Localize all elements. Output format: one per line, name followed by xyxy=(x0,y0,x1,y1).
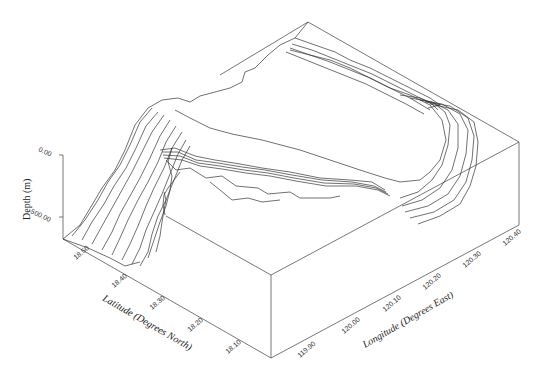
depth-axis: 0.00 -500.00 Depth (m) xyxy=(21,146,53,223)
longitude-tick-label: 120.10 xyxy=(381,294,402,313)
depth-tick-label: 0.00 xyxy=(38,146,53,158)
latitude-tick-label: 18.10 xyxy=(224,338,242,355)
longitude-axis-line xyxy=(271,225,519,358)
latitude-axis: 18.50 18.40 18.30 18.20 18.10 Latitude (… xyxy=(72,244,242,355)
latitude-axis-line xyxy=(63,239,271,358)
longitude-axis-title: Longitude (Degrees East) xyxy=(360,288,457,351)
plateau-contours xyxy=(175,22,478,224)
longitude-tick-label: 120.00 xyxy=(340,316,361,335)
western-slope-contours xyxy=(63,98,190,266)
longitude-tick-label: 120.30 xyxy=(461,250,482,269)
latitude-tick-label: 18.50 xyxy=(72,244,90,261)
southern-escarpment-contours xyxy=(160,148,390,202)
longitude-tick-label: 120.20 xyxy=(421,272,442,291)
back-left-top-edge xyxy=(220,22,308,75)
longitude-axis: 119.90 120.00 120.10 120.20 120.30 120.4… xyxy=(296,228,522,359)
bathymetry-3d-chart: 0.00 -500.00 Depth (m) 18.50 18.40 18.30… xyxy=(0,0,549,382)
latitude-tick-label: 18.30 xyxy=(148,294,166,311)
depth-axis-title: Depth (m) xyxy=(21,179,33,220)
latitude-tick-label: 18.20 xyxy=(186,316,204,333)
latitude-tick-label: 18.40 xyxy=(110,272,128,289)
back-right-top-edge xyxy=(308,22,519,142)
front-left-top-edge xyxy=(166,216,271,275)
latitude-axis-title: Latitude (Degrees North) xyxy=(100,292,195,354)
longitude-tick-label: 120.40 xyxy=(501,228,522,247)
